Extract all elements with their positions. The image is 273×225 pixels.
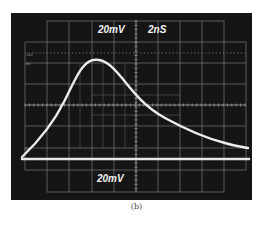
timebase-label: 2nS	[147, 24, 167, 35]
oscilloscope-figure: 20mV 2nS 20mV 100 90 10	[0, 0, 273, 225]
ch2-scale-label: 20mV	[96, 173, 125, 184]
graticule-100-label: 100	[26, 53, 33, 57]
ch1-scale-label: 20mV	[97, 24, 126, 35]
graticule-90-label: 90	[26, 62, 30, 66]
figure-caption: (b)	[0, 202, 273, 211]
